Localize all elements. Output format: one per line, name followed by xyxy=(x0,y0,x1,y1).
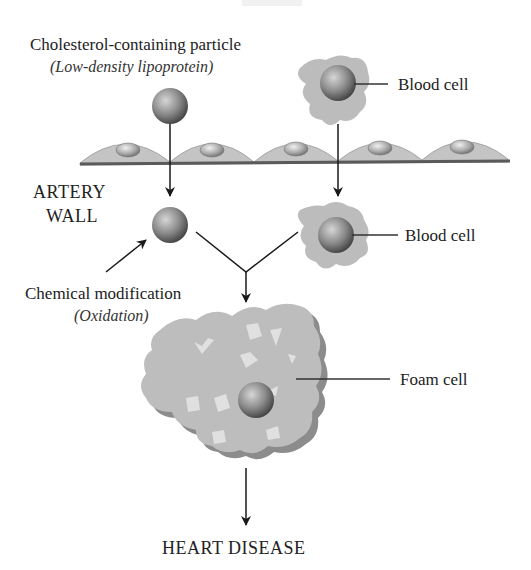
artery-wall-label-line1: ARTERY xyxy=(33,182,106,203)
oxidation-arrow xyxy=(106,240,146,272)
blood-cell-top-label: Blood cell xyxy=(398,75,468,95)
ldl-subtitle-label: (Low-density lipoprotein) xyxy=(50,58,213,76)
blood-cell-top-icon xyxy=(298,55,369,125)
artery-wall-label-line2: WALL xyxy=(46,206,98,227)
ldl-particle-wall-icon xyxy=(152,207,188,243)
converge-lines xyxy=(196,232,298,272)
top-label-fragment xyxy=(242,0,302,6)
chem-mod-subtitle-label: (Oxidation) xyxy=(74,307,149,325)
chem-mod-title-label: Chemical modification xyxy=(25,284,181,304)
blood-cell-wall-label: Blood cell xyxy=(405,226,475,246)
outcome-label: HEART DISEASE xyxy=(162,538,306,559)
foam-cell-label: Foam cell xyxy=(400,370,468,390)
artery-wall-icon xyxy=(80,140,510,165)
ldl-title-label: Cholesterol-containing particle xyxy=(30,35,241,55)
ldl-particle-icon xyxy=(152,88,188,124)
foam-cell-icon xyxy=(141,304,328,459)
